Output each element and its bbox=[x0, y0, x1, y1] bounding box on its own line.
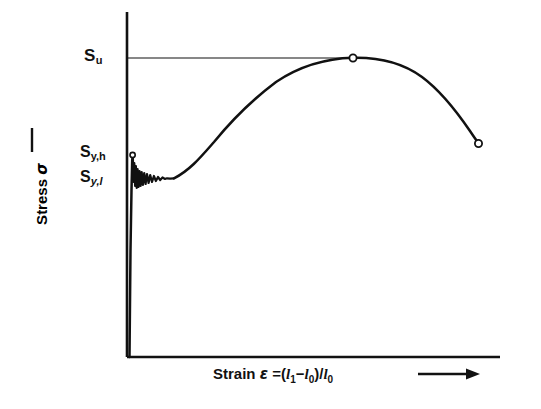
y-axis-label: Stress σ bbox=[33, 134, 51, 254]
ultimate-strength-label: Su bbox=[84, 47, 103, 64]
stress-strain-diagram bbox=[0, 0, 541, 409]
upper-yield-label-subscript: y,h bbox=[91, 150, 106, 162]
x-axis-label-equals: = bbox=[272, 365, 281, 382]
x-axis-label-text: Strain bbox=[213, 365, 256, 382]
upper-yield-point-marker bbox=[130, 152, 135, 157]
x-axis-label: Strain ε =(l1−l0)/l0 bbox=[213, 366, 333, 382]
ultimate-strength-label-main: S bbox=[84, 46, 96, 65]
x-axis-label-length-final-subscript: 1 bbox=[290, 374, 296, 385]
y-axis-label-symbol: σ bbox=[33, 163, 51, 175]
upper-yield-label: Sy,h bbox=[80, 144, 106, 160]
x-axis-label-symbol: ε bbox=[260, 365, 268, 383]
x-axis-label-denominator: l bbox=[323, 366, 327, 382]
x-axis-label-length-initial-subscript: 0 bbox=[309, 374, 315, 385]
figure-background bbox=[0, 0, 541, 409]
lower-yield-label-subscript: y,l bbox=[91, 175, 103, 187]
lower-yield-label-main: S bbox=[80, 168, 91, 185]
x-axis-label-denominator-subscript: 0 bbox=[328, 374, 334, 385]
upper-yield-label-main: S bbox=[80, 143, 91, 160]
lower-yield-label: Sy,l bbox=[80, 169, 103, 185]
y-axis-label-text: Stress bbox=[33, 179, 50, 225]
fracture-point-marker bbox=[475, 140, 482, 147]
ultimate-strength-label-subscript: u bbox=[96, 54, 103, 66]
ultimate-strength-point-marker bbox=[349, 54, 356, 61]
